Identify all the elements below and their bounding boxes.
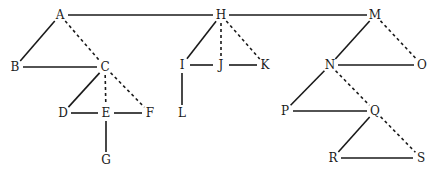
node-a: A <box>55 8 65 22</box>
edge-c-f <box>111 73 145 108</box>
node-b: B <box>11 60 20 74</box>
edge-h-k <box>226 21 259 59</box>
edge-a-c <box>65 21 100 61</box>
node-n: N <box>325 58 336 72</box>
edge-q-r <box>338 117 369 152</box>
node-s: S <box>417 151 425 165</box>
edge-a-b <box>20 21 55 61</box>
node-j: J <box>217 58 224 72</box>
node-k: K <box>261 58 271 72</box>
edge-q-s <box>381 117 416 153</box>
edge-c-d <box>68 73 99 107</box>
node-i: I <box>180 58 185 72</box>
edge-n-q <box>336 71 370 106</box>
node-o: O <box>417 58 427 72</box>
nodes-layer: ABCDEFGHIJKLMNOPQRS <box>11 8 427 167</box>
node-h: H <box>216 8 226 22</box>
node-c: C <box>100 60 109 74</box>
edges-layer <box>20 15 416 158</box>
node-q: Q <box>370 104 380 118</box>
edge-m-o <box>380 21 416 59</box>
node-f: F <box>146 106 154 120</box>
node-m: M <box>369 8 381 22</box>
edge-n-p <box>291 71 325 106</box>
node-d: D <box>58 106 68 120</box>
node-g: G <box>101 153 111 167</box>
tree-diagram: ABCDEFGHIJKLMNOPQRS <box>0 0 436 173</box>
edge-m-n <box>335 21 369 59</box>
node-p: P <box>281 104 289 118</box>
edge-c-e <box>105 75 106 105</box>
node-l: L <box>178 106 186 120</box>
node-e: E <box>102 106 111 120</box>
edge-h-i <box>187 21 216 58</box>
node-r: R <box>328 151 338 165</box>
